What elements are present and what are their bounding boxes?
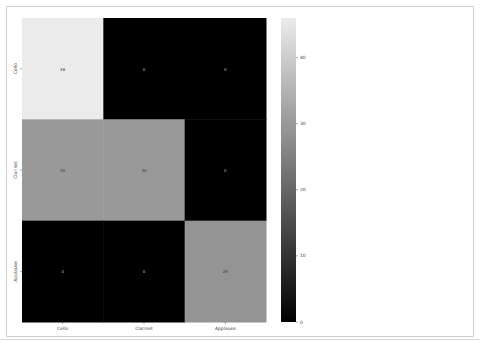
x-axis-ticks: CelloClarinetApplause xyxy=(57,322,236,331)
x-tick-label: Applause xyxy=(215,326,236,331)
cell-label: 30 xyxy=(60,168,66,173)
colorbar-tick-label: 30 xyxy=(300,121,306,126)
cell-label: 30 xyxy=(141,168,147,173)
cell-label: 0 xyxy=(61,269,64,274)
colorbar-tick-label: 0 xyxy=(300,320,303,325)
colorbar xyxy=(281,18,296,322)
cell-label: 0 xyxy=(143,269,146,274)
cell-label: 0 xyxy=(143,67,146,72)
colorbar-tick-label: 10 xyxy=(300,253,306,258)
x-tick-label: Cello xyxy=(57,326,68,331)
y-tick-label: Clarinet xyxy=(13,161,18,179)
colorbar-tick-label: 20 xyxy=(300,187,306,192)
heatmap-chart: 4600303000029 CelloClarinetApplause Cell… xyxy=(0,0,480,343)
y-tick-label: Cello xyxy=(13,63,18,74)
cell-label: 46 xyxy=(60,67,66,72)
cell-label: 29 xyxy=(223,269,229,274)
y-tick-label: Applause xyxy=(13,261,18,282)
colorbar-ticks: 010203040 xyxy=(296,55,306,324)
colorbar-tick-label: 40 xyxy=(300,55,306,60)
x-tick-label: Clarinet xyxy=(135,326,153,331)
y-axis-ticks: CelloClarinetApplause xyxy=(13,63,22,282)
